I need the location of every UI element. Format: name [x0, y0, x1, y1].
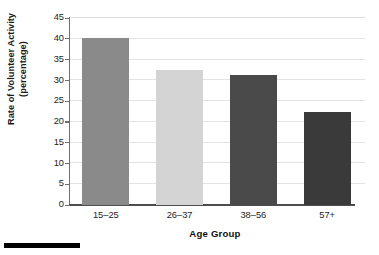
y-axis-tick-mark: [65, 38, 70, 39]
y-axis-tick-label: 35: [40, 55, 64, 64]
x-axis-tick-labels: 15–2526–3738–5657+: [70, 210, 365, 224]
y-axis-tick-label: 40: [40, 34, 64, 43]
y-axis-tick-label: 5: [40, 179, 64, 188]
plot-area: [70, 18, 365, 205]
y-axis-tick-label: 0: [40, 200, 64, 209]
y-axis-title-line-2: (percentage): [18, 41, 30, 97]
bar[interactable]: [304, 112, 351, 205]
x-axis-title: Age Group: [70, 228, 360, 239]
bar[interactable]: [156, 70, 203, 205]
y-axis-tick-mark: [65, 121, 70, 122]
y-axis-tick-mark: [65, 80, 70, 81]
y-axis-tick-label: 15: [40, 138, 64, 147]
y-axis-tick-labels: 051015202530354045: [36, 0, 64, 255]
y-axis-tick-label: 10: [40, 159, 64, 168]
bar[interactable]: [230, 75, 277, 205]
x-axis-tick-label: 38–56: [217, 210, 291, 220]
y-axis-tick-label: 30: [40, 76, 64, 85]
y-axis-tick-mark: [65, 205, 70, 206]
y-axis-tick-mark: [65, 142, 70, 143]
y-axis-tick-mark: [65, 184, 70, 185]
scan-artifact-bar: [4, 243, 80, 248]
y-axis-tick-mark: [65, 163, 70, 164]
y-axis-tick-label: 45: [40, 13, 64, 22]
y-axis-tick-mark: [65, 18, 70, 19]
bar[interactable]: [82, 38, 129, 205]
y-axis-title-line-1: Rate of Volunteer Activity: [6, 13, 18, 125]
y-axis-tick-label: 25: [40, 96, 64, 105]
gridline: [70, 17, 365, 18]
x-axis-tick-label: 57+: [290, 210, 364, 220]
y-axis-tick-mark: [65, 101, 70, 102]
y-axis-tick-label: 20: [40, 117, 64, 126]
y-axis-tick-mark: [65, 59, 70, 60]
x-axis-tick-label: 26–37: [143, 210, 217, 220]
y-axis-title: Rate of Volunteer Activity (percentage): [3, 0, 33, 149]
x-axis-tick-label: 15–25: [69, 210, 143, 220]
bar-chart-figure: Rate of Volunteer Activity (percentage) …: [0, 0, 379, 255]
